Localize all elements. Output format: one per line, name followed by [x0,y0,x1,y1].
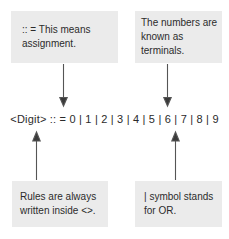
arrow-up-or [172,132,179,180]
callout-or: | symbol stands for OR. [135,181,222,227]
callout-rules: Rules are always written inside <>. [12,181,108,227]
callout-assignment: :: = This means assignment. [11,11,118,63]
bnf-annotation-diagram: :: = This means assignment. The numbers … [0,0,229,239]
arrow-down-assignment [60,64,67,106]
callout-rules-text: Rules are always written inside <>. [20,190,104,218]
callout-or-text: | symbol stands for OR. [144,190,218,218]
grammar-rule-row: <Digit> :: = 0 | 1 | 2 | 3 | 4 | 5 | 6 |… [0,108,229,130]
arrow-down-terminals [164,64,171,106]
grammar-rule-text: <Digit> :: = 0 | 1 | 2 | 3 | 4 | 5 | 6 |… [10,113,218,125]
arrow-up-rules [33,132,40,180]
callout-terminals: The numbers are known as terminals. [135,11,222,63]
callout-assignment-text: :: = This means assignment. [22,23,111,51]
callout-terminals-text: The numbers are known as terminals. [141,16,218,58]
